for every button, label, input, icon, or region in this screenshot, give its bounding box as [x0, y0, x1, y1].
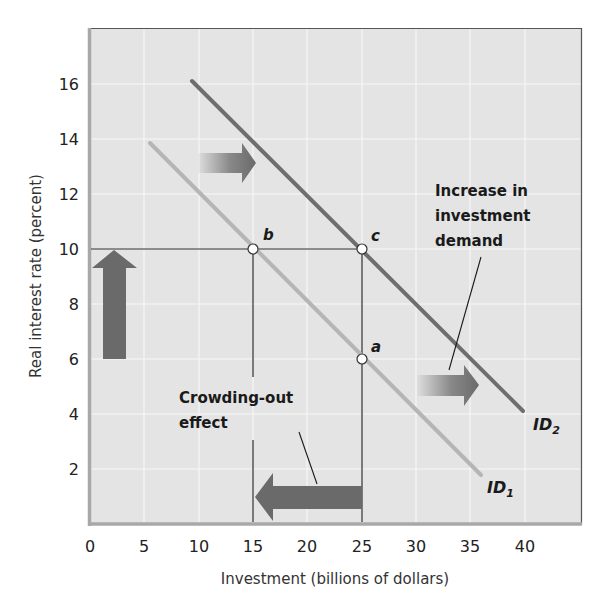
x-tick-labels: 0 5 10 15 20 25 30 35 40: [85, 537, 535, 556]
svg-text:Increase in: Increase in: [435, 182, 528, 200]
svg-text:10: 10: [59, 240, 79, 259]
point-c-label: c: [371, 227, 380, 245]
point-a-label: a: [371, 338, 381, 356]
chart-canvas: b c a ID2 ID1 Increase in investment dem…: [0, 0, 607, 610]
svg-text:0: 0: [85, 537, 95, 556]
x-axis-label: Investment (billions of dollars): [221, 570, 449, 588]
plot-area: [88, 28, 582, 525]
svg-text:investment: investment: [435, 207, 531, 225]
svg-text:effect: effect: [179, 414, 228, 432]
svg-text:6: 6: [69, 350, 79, 369]
point-b-label: b: [263, 226, 274, 244]
svg-text:demand: demand: [435, 232, 503, 250]
svg-text:35: 35: [460, 537, 480, 556]
svg-text:4: 4: [69, 405, 79, 424]
point-a: [357, 354, 367, 364]
svg-text:8: 8: [69, 295, 79, 314]
y-axis-label: Real interest rate (percent): [27, 174, 45, 378]
svg-text:20: 20: [297, 537, 317, 556]
svg-text:2: 2: [69, 460, 79, 479]
svg-text:5: 5: [139, 537, 149, 556]
svg-text:Crowding-out: Crowding-out: [179, 389, 293, 407]
svg-text:14: 14: [59, 130, 79, 149]
svg-text:40: 40: [515, 537, 535, 556]
svg-text:15: 15: [243, 537, 263, 556]
point-b: [248, 244, 258, 254]
svg-text:16: 16: [59, 75, 79, 94]
point-c: [357, 244, 367, 254]
svg-text:30: 30: [406, 537, 426, 556]
svg-text:25: 25: [352, 537, 372, 556]
svg-text:12: 12: [59, 185, 79, 204]
svg-text:10: 10: [189, 537, 209, 556]
y-tick-labels: 2 4 6 8 10 12 14 16: [59, 75, 79, 479]
